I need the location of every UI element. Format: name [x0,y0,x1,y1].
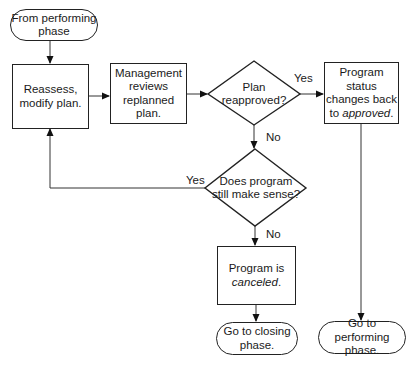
decision-reapproved-text: Plan reapproved? [222,81,287,108]
process-canceled: Program is canceled. [217,246,296,305]
process-status-approved: Program status changes back to approved. [324,62,399,124]
process-management-text: Management reviews replanned plan. [111,67,186,121]
status-line1: Program status [325,66,398,93]
edge-label-sense-yes: Yes [186,174,205,187]
decision-reapproved: Plan reapproved? [212,78,296,110]
closing-terminator: Go to closing phase. [216,322,298,355]
edge-label-sense-no: No [266,228,281,241]
process-reassess-text: Reassess, modify plan. [19,83,81,110]
canceled-suffix: . [278,276,281,288]
performing-terminator-text: Go to performing phase. [319,317,405,358]
edge-label-reapproved-yes: Yes [294,72,313,85]
closing-terminator-text: Go to closing phase. [223,325,290,352]
status-line2: changes back [325,93,398,107]
edge-sense-yes [50,129,206,188]
status-approved-italic: approved [342,107,390,119]
status-line3-prefix: to [330,107,343,119]
edge-label-reapproved-no: No [266,131,281,144]
decision-sense-text: Does program still make sense? [212,175,300,202]
canceled-italic: canceled [232,276,278,288]
flowchart-connectors [0,0,412,366]
decision-sense: Does program still make sense? [208,172,304,204]
start-terminator-text: From performing phase [12,12,97,39]
process-reassess: Reassess, modify plan. [12,64,89,129]
process-management-review: Management reviews replanned plan. [110,63,187,124]
start-terminator: From performing phase [10,9,98,41]
canceled-line1: Program is [229,262,285,276]
status-line3-suffix: . [390,107,393,119]
performing-terminator: Go to performing phase. [318,321,406,354]
